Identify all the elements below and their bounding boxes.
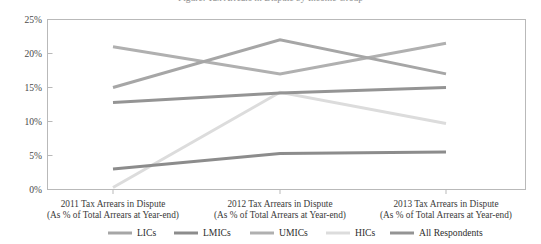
legend-label-lmics: LMICs [203,227,231,238]
x-category-label: 2012 Tax Arrears in Dispute [227,199,332,209]
ytick-label: 10% [24,116,42,127]
y-axis-labels: 25% 20% 15% 10% 5% 0% [24,14,42,195]
legend-item-lmics[interactable]: LMICs [174,227,231,238]
x-category-label: 2013 Tax Arrears in Dispute [393,199,498,209]
legend-label-lics: LICs [137,227,156,238]
x-category-sublabel: (As % of Total Arrears at Year-end) [47,210,179,221]
series-line-hics [113,92,446,187]
x-axis-labels: 2011 Tax Arrears in Dispute (As % of Tot… [47,199,512,221]
ytick-label: 5% [29,150,42,161]
series-line-all-respondents [113,88,446,103]
x-axis-ticks [113,190,446,195]
legend-item-all-respondents[interactable]: All Respondents [390,227,483,238]
legend-item-hics[interactable]: HICs [326,227,376,238]
legend-label-hics: HICs [355,227,376,238]
legend-label-umics: UMICs [279,227,308,238]
ytick-label: 25% [24,14,42,25]
legend-label-all-respondents: All Respondents [419,227,483,238]
legend-item-lics[interactable]: LICs [108,227,156,238]
ytick-label: 0% [29,184,42,195]
plot-frame [48,20,526,190]
line-chart-svg: 25% 20% 15% 10% 5% 0% 2011 Tax Arrears i… [0,0,541,244]
y-axis-ticks [48,20,53,190]
x-category-label: 2011 Tax Arrears in Dispute [61,199,166,209]
series-lines [113,40,446,188]
ytick-label: 20% [24,48,42,59]
x-category-sublabel: (As % of Total Arrears at Year-end) [380,210,512,221]
x-category-sublabel: (As % of Total Arrears at Year-end) [214,210,346,221]
series-line-umics [113,43,446,74]
legend-item-umics[interactable]: UMICs [250,227,308,238]
series-line-lics [113,40,446,88]
chart-legend: LICs LMICs UMICs HICs All Respondents [108,227,483,238]
chart-figure: Figure: Tax Arrears in Dispute by Income… [0,0,541,244]
ytick-label: 15% [24,82,42,93]
